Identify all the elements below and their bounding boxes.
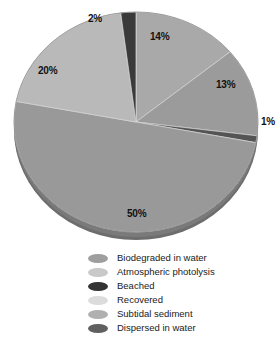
legend-color-swatch-icon bbox=[88, 296, 108, 305]
legend-item[interactable]: Subtidal sediment bbox=[88, 307, 278, 321]
pie-slice-value-label: 1% bbox=[261, 117, 275, 127]
legend-item[interactable]: Recovered bbox=[88, 293, 278, 307]
legend-item[interactable]: Atmospheric photolysis bbox=[88, 265, 278, 279]
legend-item-label: Atmospheric photolysis bbox=[117, 265, 215, 279]
legend-item[interactable]: Dispersed in water bbox=[88, 321, 278, 335]
legend-color-swatch-icon bbox=[88, 254, 108, 263]
legend-item-label: Subtidal sediment bbox=[117, 307, 193, 321]
legend-item-label: Biodegraded in water bbox=[117, 251, 207, 265]
pie-plot-area: 14%13%1%50%20%2% bbox=[0, 0, 280, 245]
legend-color-swatch-icon bbox=[88, 282, 108, 291]
pie-slice-value-label: 13% bbox=[216, 80, 235, 90]
legend-item-label: Beached bbox=[117, 279, 155, 293]
pie-slice-value-label: 20% bbox=[38, 66, 57, 76]
pie-slice-value-label: 14% bbox=[150, 32, 169, 42]
pie-slices bbox=[14, 12, 258, 232]
legend-color-swatch-icon bbox=[88, 268, 108, 277]
legend-item-label: Dispersed in water bbox=[117, 321, 196, 335]
legend-color-swatch-icon bbox=[88, 310, 108, 319]
legend-item[interactable]: Biodegraded in water bbox=[88, 251, 278, 265]
legend-color-swatch-icon bbox=[88, 324, 108, 333]
legend-item[interactable]: Beached bbox=[88, 279, 278, 293]
legend-item-label: Recovered bbox=[117, 293, 163, 307]
pie-slice-value-label: 2% bbox=[88, 14, 102, 24]
pie-chart-figure: 14%13%1%50%20%2% Biodegraded in waterAtm… bbox=[0, 0, 280, 343]
chart-legend: Biodegraded in waterAtmospheric photolys… bbox=[88, 251, 278, 335]
pie-slice-value-label: 50% bbox=[127, 209, 146, 219]
